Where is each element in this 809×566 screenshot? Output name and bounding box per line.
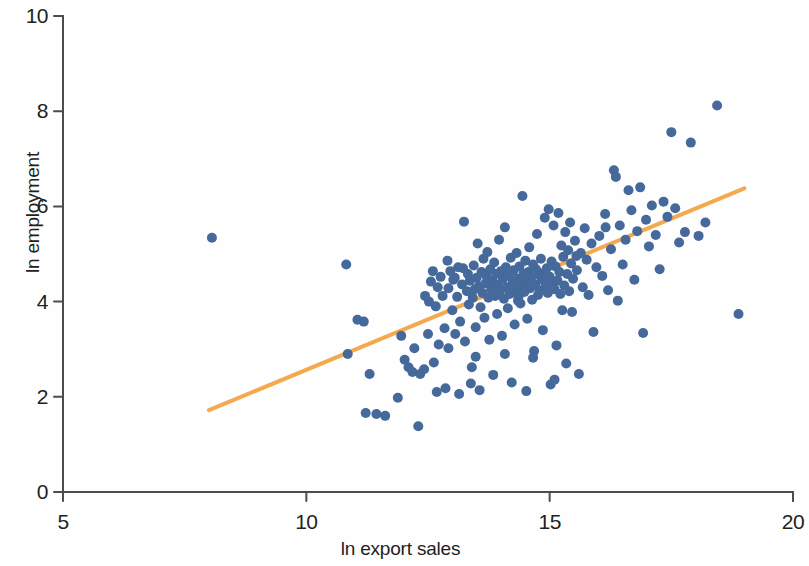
data-point (647, 200, 657, 210)
y-tick-label: 4 (0, 291, 48, 312)
y-tick-label: 10 (0, 5, 48, 26)
data-point (588, 327, 598, 337)
data-point (571, 251, 581, 261)
data-point (580, 223, 590, 233)
data-point (694, 231, 704, 241)
data-point (341, 259, 351, 269)
data-point (207, 233, 217, 243)
data-point (497, 331, 507, 341)
y-tick-label: 2 (0, 386, 48, 407)
data-point (469, 260, 479, 270)
data-point (600, 209, 610, 219)
data-point (440, 323, 450, 333)
data-point (442, 256, 452, 266)
data-point (638, 328, 648, 338)
data-point (686, 138, 696, 148)
data-point (423, 329, 433, 339)
data-point (443, 343, 453, 353)
data-point (517, 191, 527, 201)
data-point (528, 353, 538, 363)
data-point (655, 264, 665, 274)
data-point (626, 205, 636, 215)
data-point (436, 272, 446, 282)
data-point (584, 290, 594, 300)
data-point (624, 185, 634, 195)
data-point (485, 277, 495, 287)
data-point (587, 239, 597, 249)
data-point (561, 358, 571, 368)
data-point (567, 307, 577, 317)
data-point (659, 197, 669, 207)
data-point (500, 349, 510, 359)
data-point (450, 329, 460, 339)
data-point (666, 127, 676, 137)
data-point (611, 172, 621, 182)
data-point (522, 314, 532, 324)
data-point (413, 421, 423, 431)
data-point (594, 231, 604, 241)
data-point (555, 289, 565, 299)
data-point (396, 331, 406, 341)
data-point (450, 273, 460, 283)
data-point (471, 352, 481, 362)
data-point (434, 339, 444, 349)
data-point (443, 283, 453, 293)
data-point (572, 265, 582, 275)
data-point (549, 220, 559, 230)
data-point (538, 325, 548, 335)
data-point (507, 378, 517, 388)
data-point (557, 305, 567, 315)
y-axis-title: ln employment (22, 152, 44, 273)
data-point (680, 227, 690, 237)
data-point (536, 254, 546, 264)
data-point (488, 370, 498, 380)
data-point (621, 235, 631, 245)
data-point (380, 411, 390, 421)
data-point (544, 204, 554, 214)
data-point (359, 317, 369, 327)
data-point (670, 203, 680, 213)
data-point (361, 408, 371, 418)
data-point (597, 271, 607, 281)
data-point (570, 236, 580, 246)
data-point (651, 230, 661, 240)
data-point (574, 369, 584, 379)
data-point (473, 239, 483, 249)
data-point (510, 319, 520, 329)
data-point (419, 364, 429, 374)
data-point (532, 229, 542, 239)
data-point (476, 302, 486, 312)
data-point (563, 245, 573, 255)
data-point (500, 222, 510, 232)
data-point (603, 285, 613, 295)
data-point (542, 278, 552, 288)
data-point (700, 218, 710, 228)
data-point (512, 248, 522, 258)
data-point (606, 244, 616, 254)
x-tick-label: 20 (763, 511, 809, 532)
data-point (482, 247, 492, 257)
data-point (492, 309, 502, 319)
data-point (460, 337, 470, 347)
data-point (371, 409, 381, 419)
data-point (565, 218, 575, 228)
data-point (475, 385, 485, 395)
data-point (618, 259, 628, 269)
y-tick-label: 0 (0, 481, 48, 502)
x-tick-label: 10 (276, 511, 336, 532)
axis-layer (54, 16, 793, 501)
data-point (471, 322, 481, 332)
data-point (452, 292, 462, 302)
data-point (433, 282, 443, 292)
data-point (468, 293, 478, 303)
data-point (613, 296, 623, 306)
data-point (459, 217, 469, 227)
data-point (420, 291, 430, 301)
data-point (466, 378, 476, 388)
data-point (489, 258, 499, 268)
data-point (441, 383, 451, 393)
data-point (733, 309, 743, 319)
data-point (431, 301, 441, 311)
